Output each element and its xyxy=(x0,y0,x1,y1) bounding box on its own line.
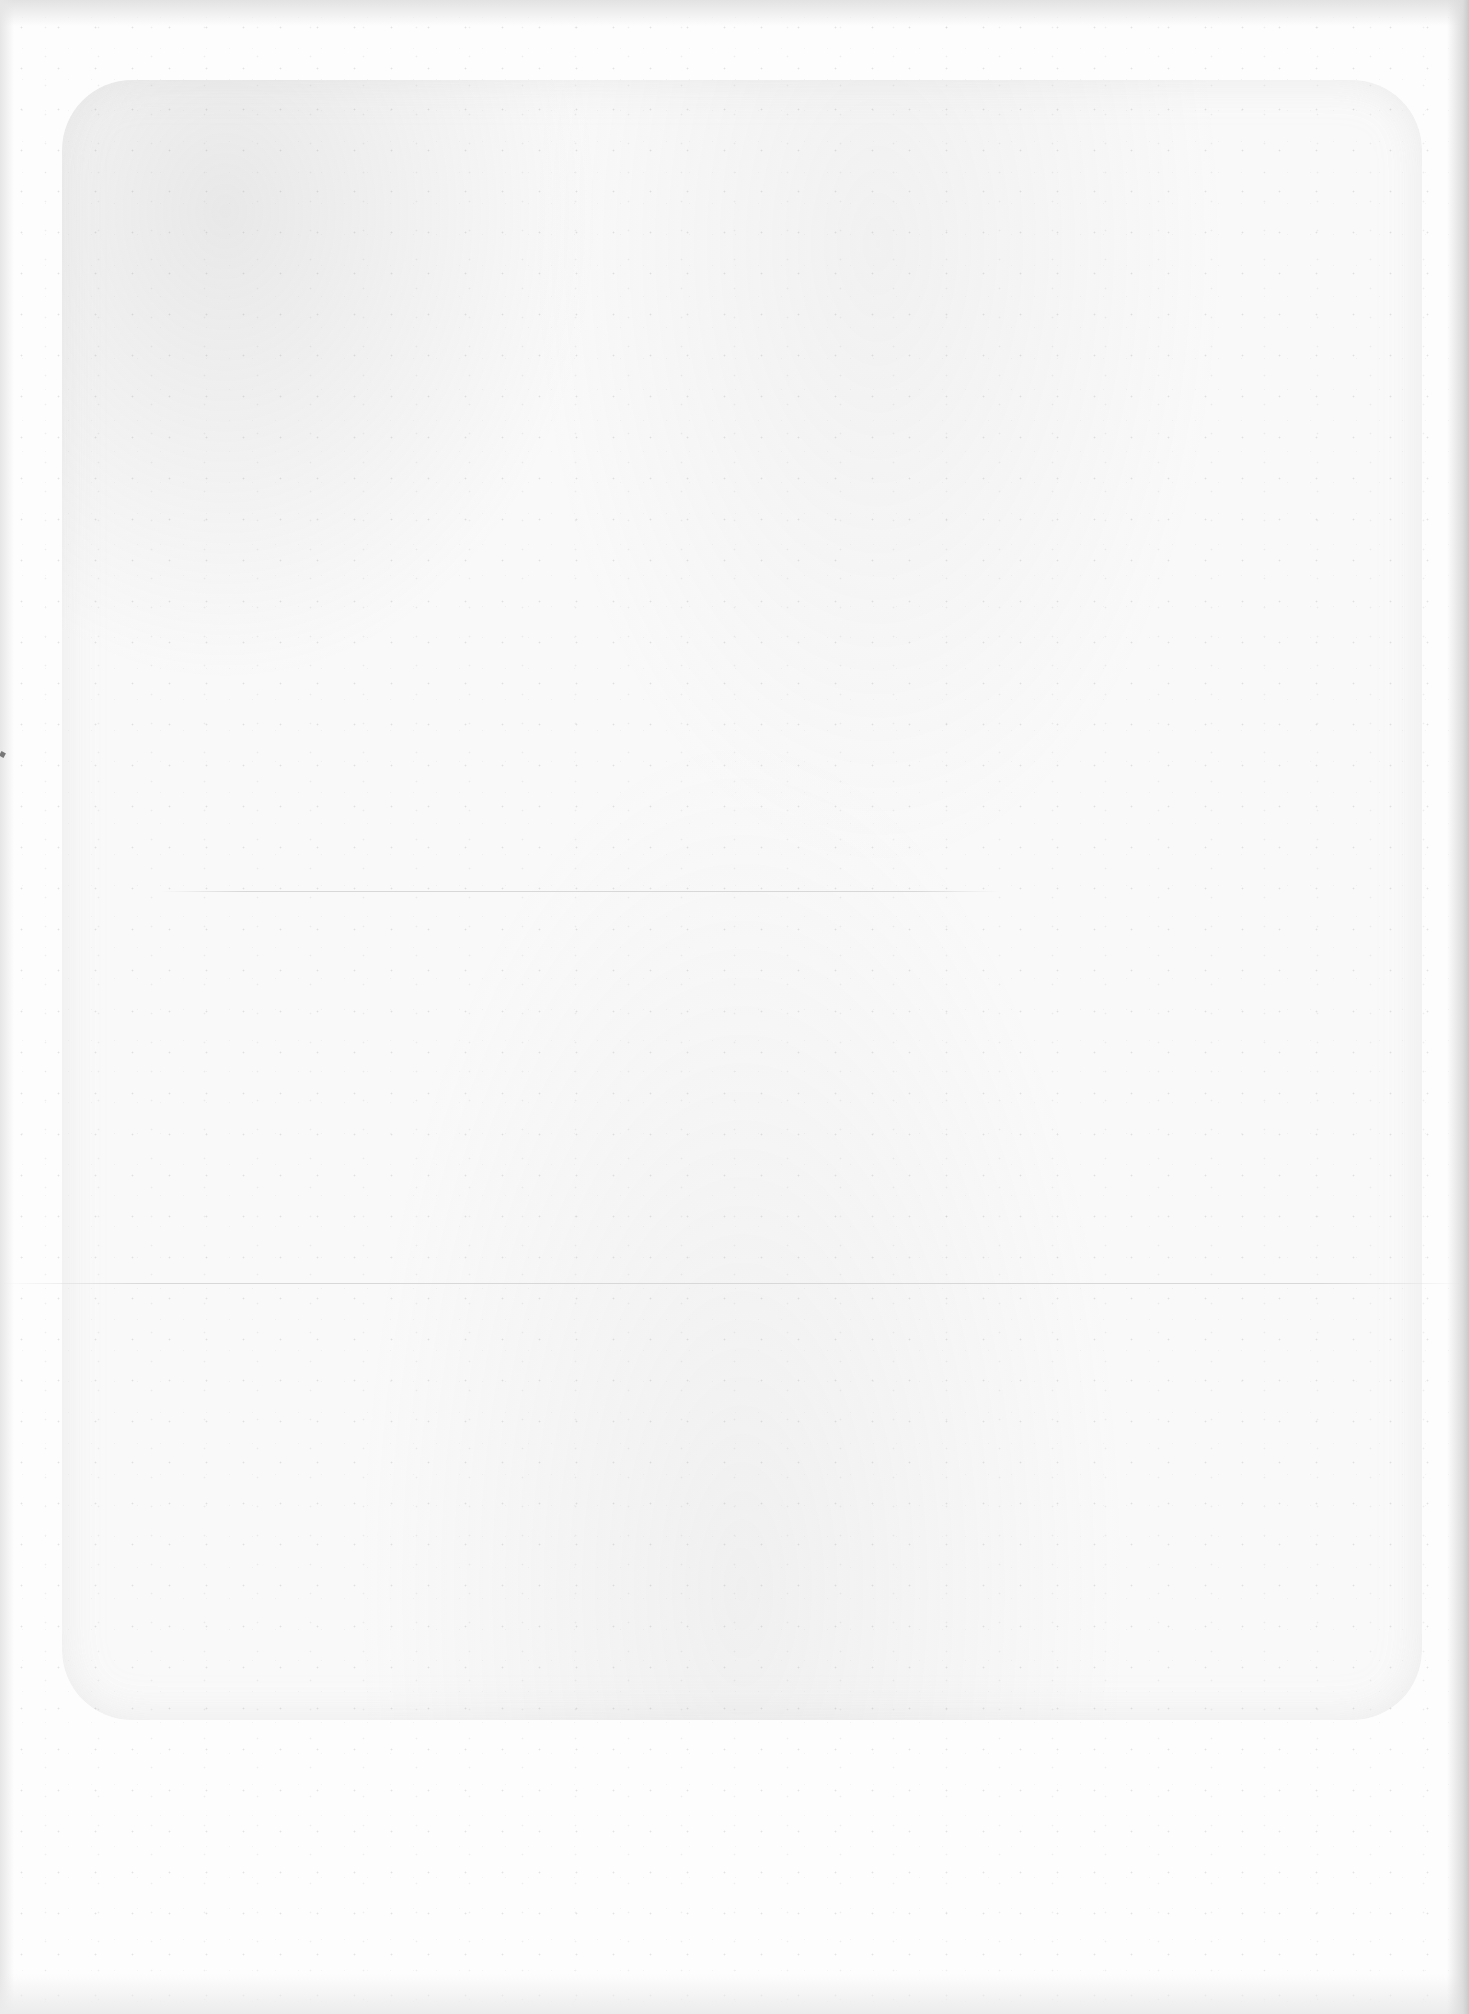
scan-left-border xyxy=(0,0,14,2014)
upper-fold-line xyxy=(160,891,1000,892)
scan-top-border xyxy=(0,0,1469,26)
scan-bottom-border xyxy=(0,1974,1469,2014)
blank-scanned-page xyxy=(0,0,1469,2014)
right-edge-shadow xyxy=(1447,0,1469,2014)
lower-fold-line xyxy=(0,1283,1469,1284)
scan-speckle-noise xyxy=(0,0,1469,2014)
